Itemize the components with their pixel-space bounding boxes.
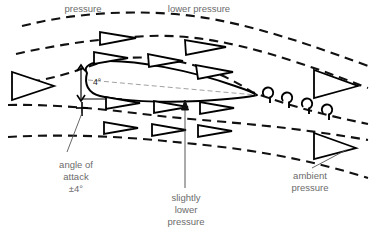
vortex-4 — [322, 104, 332, 120]
airfoil-chord-line — [88, 80, 256, 95]
streamline-top-1 — [22, 13, 368, 67]
outlet-flow-arrow-upper — [314, 70, 358, 98]
flow-arrow-lower-4 — [104, 122, 138, 134]
inlet-flow-arrow — [12, 72, 54, 100]
label-slightly-lower-pressure-line1: slightly — [171, 192, 200, 203]
flow-arrow-lower-5 — [152, 124, 186, 136]
label-ambient-pressure-line1: ambient — [293, 170, 327, 181]
label-angle-of-attack-line1: angle of — [59, 159, 93, 170]
flow-arrow-upper-4 — [148, 54, 183, 67]
label-angle-of-attack-line3: ±4° — [69, 183, 83, 194]
label-ambient-pressure-line2: pressure — [292, 182, 329, 193]
flow-arrow-upper-1 — [100, 32, 136, 45]
label-pressure-top-left: pressure — [65, 3, 102, 14]
label-lower-pressure-top: lower pressure — [168, 3, 230, 14]
flow-arrow-lower-3 — [200, 102, 234, 114]
angle-of-attack-leader — [67, 113, 82, 152]
flow-arrow-upper-5 — [196, 65, 233, 79]
label-slightly-lower-pressure-line2: lower — [175, 204, 198, 215]
label-slightly-lower-pressure-line3: pressure — [168, 216, 205, 227]
airfoil-pressure-diagram: 4° — [0, 0, 371, 234]
flow-arrow-upper-2 — [185, 40, 226, 55]
flow-arrow-lower-6 — [198, 125, 232, 137]
outlet-flow-arrow-lower — [314, 133, 356, 159]
airfoil-shape — [86, 61, 257, 102]
vortex-1 — [263, 87, 273, 103]
angle-value-label: 4° — [93, 77, 101, 87]
label-angle-of-attack-line2: attack — [63, 171, 89, 182]
